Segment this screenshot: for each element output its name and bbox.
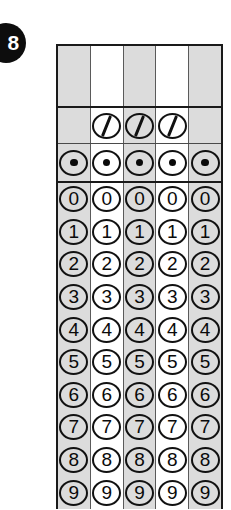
fraction-cell-3[interactable] <box>124 108 157 143</box>
digit-cell[interactable]: 4 <box>91 313 124 346</box>
digit-bubble[interactable]: 3 <box>158 284 187 310</box>
digit-bubble[interactable]: 4 <box>158 317 187 343</box>
digit-cell[interactable]: 5 <box>189 346 221 379</box>
digit-cell[interactable]: 3 <box>156 281 189 314</box>
digit-cell[interactable]: 6 <box>91 379 124 412</box>
fraction-bubble-3[interactable] <box>125 113 154 139</box>
digit-cell[interactable]: 8 <box>91 444 124 477</box>
digit-bubble[interactable]: 5 <box>191 349 220 375</box>
digit-bubble[interactable]: 7 <box>191 414 220 440</box>
digit-bubble[interactable]: 9 <box>92 480 121 506</box>
digit-bubble[interactable]: 8 <box>92 447 121 473</box>
digit-cell[interactable]: 4 <box>124 313 157 346</box>
decimal-cell-2[interactable] <box>91 144 124 181</box>
write-in-box-2[interactable] <box>91 46 124 106</box>
digit-cell[interactable]: 8 <box>189 444 221 477</box>
digit-cell[interactable]: 4 <box>189 313 221 346</box>
digit-bubble[interactable]: 9 <box>191 480 220 506</box>
digit-bubble[interactable]: 8 <box>125 447 154 473</box>
digit-cell[interactable]: 7 <box>124 411 157 444</box>
digit-bubble[interactable]: 7 <box>59 414 88 440</box>
digit-cell[interactable]: 7 <box>91 411 124 444</box>
digit-cell[interactable]: 1 <box>189 216 221 249</box>
digit-cell[interactable]: 3 <box>58 281 91 314</box>
digit-bubble[interactable]: 6 <box>158 382 187 408</box>
digit-cell[interactable]: 2 <box>124 248 157 281</box>
digit-bubble[interactable]: 0 <box>92 186 121 212</box>
digit-bubble[interactable]: 9 <box>125 480 154 506</box>
digit-cell[interactable]: 0 <box>91 183 124 216</box>
digit-cell[interactable]: 7 <box>156 411 189 444</box>
decimal-cell-1[interactable] <box>58 144 91 181</box>
digit-bubble[interactable]: 6 <box>92 382 121 408</box>
digit-cell[interactable]: 9 <box>189 476 221 509</box>
digit-cell[interactable]: 1 <box>58 216 91 249</box>
digit-cell[interactable]: 6 <box>189 379 221 412</box>
digit-cell[interactable]: 3 <box>124 281 157 314</box>
digit-cell[interactable]: 3 <box>189 281 221 314</box>
digit-cell[interactable]: 4 <box>156 313 189 346</box>
digit-bubble[interactable]: 1 <box>125 219 154 245</box>
digit-bubble[interactable]: 5 <box>158 349 187 375</box>
digit-bubble[interactable]: 7 <box>125 414 154 440</box>
decimal-cell-4[interactable] <box>156 144 189 181</box>
digit-bubble[interactable]: 2 <box>125 251 154 277</box>
digit-cell[interactable]: 0 <box>124 183 157 216</box>
digit-cell[interactable]: 2 <box>156 248 189 281</box>
decimal-cell-5[interactable] <box>189 144 221 181</box>
digit-bubble[interactable]: 0 <box>59 186 88 212</box>
digit-bubble[interactable]: 7 <box>158 414 187 440</box>
digit-bubble[interactable]: 0 <box>158 186 187 212</box>
digit-cell[interactable]: 7 <box>58 411 91 444</box>
digit-bubble[interactable]: 3 <box>92 284 121 310</box>
digit-bubble[interactable]: 4 <box>59 317 88 343</box>
digit-bubble[interactable]: 5 <box>125 349 154 375</box>
digit-cell[interactable]: 9 <box>58 476 91 509</box>
decimal-bubble-5[interactable] <box>191 150 220 176</box>
digit-cell[interactable]: 0 <box>189 183 221 216</box>
digit-bubble[interactable]: 8 <box>191 447 220 473</box>
digit-bubble[interactable]: 3 <box>191 284 220 310</box>
digit-bubble[interactable]: 2 <box>59 251 88 277</box>
digit-bubble[interactable]: 2 <box>92 251 121 277</box>
digit-cell[interactable]: 8 <box>58 444 91 477</box>
digit-bubble[interactable]: 6 <box>59 382 88 408</box>
digit-cell[interactable]: 8 <box>156 444 189 477</box>
digit-bubble[interactable]: 3 <box>59 284 88 310</box>
digit-bubble[interactable]: 5 <box>59 349 88 375</box>
digit-cell[interactable]: 0 <box>156 183 189 216</box>
digit-cell[interactable]: 5 <box>156 346 189 379</box>
digit-cell[interactable]: 5 <box>124 346 157 379</box>
decimal-bubble-3[interactable] <box>125 150 154 176</box>
digit-bubble[interactable]: 4 <box>191 317 220 343</box>
digit-cell[interactable]: 6 <box>156 379 189 412</box>
digit-cell[interactable]: 8 <box>124 444 157 477</box>
digit-bubble[interactable]: 4 <box>125 317 154 343</box>
digit-cell[interactable]: 5 <box>58 346 91 379</box>
write-in-box-1[interactable] <box>58 46 91 106</box>
digit-bubble[interactable]: 7 <box>92 414 121 440</box>
digit-cell[interactable]: 6 <box>124 379 157 412</box>
write-in-box-4[interactable] <box>156 46 189 106</box>
digit-cell[interactable]: 1 <box>91 216 124 249</box>
decimal-bubble-1[interactable] <box>59 150 88 176</box>
digit-bubble[interactable]: 1 <box>92 219 121 245</box>
digit-bubble[interactable]: 9 <box>59 480 88 506</box>
write-in-box-3[interactable] <box>124 46 157 106</box>
digit-cell[interactable]: 7 <box>189 411 221 444</box>
fraction-bubble-4[interactable] <box>158 113 187 139</box>
digit-cell[interactable]: 6 <box>58 379 91 412</box>
fraction-cell-2[interactable] <box>91 108 124 143</box>
digit-bubble[interactable]: 2 <box>158 251 187 277</box>
digit-cell[interactable]: 1 <box>124 216 157 249</box>
digit-bubble[interactable]: 1 <box>191 219 220 245</box>
digit-cell[interactable]: 4 <box>58 313 91 346</box>
decimal-cell-3[interactable] <box>124 144 157 181</box>
fraction-cell-4[interactable] <box>156 108 189 143</box>
digit-bubble[interactable]: 6 <box>125 382 154 408</box>
digit-cell[interactable]: 9 <box>91 476 124 509</box>
digit-bubble[interactable]: 3 <box>125 284 154 310</box>
digit-bubble[interactable]: 8 <box>158 447 187 473</box>
digit-cell[interactable]: 0 <box>58 183 91 216</box>
digit-cell[interactable]: 5 <box>91 346 124 379</box>
